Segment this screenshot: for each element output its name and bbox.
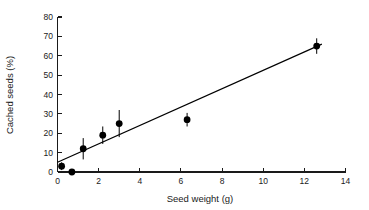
data-point — [313, 43, 320, 50]
error-bars — [62, 38, 317, 170]
x-tick-label: 12 — [300, 176, 310, 186]
regression-line — [58, 44, 322, 162]
data-point — [80, 145, 87, 152]
x-tick-label: 14 — [341, 176, 351, 186]
y-tick-label: 50 — [44, 70, 54, 80]
y-tick-label: 20 — [44, 128, 54, 138]
y-axis-title: Cached seeds (%) — [4, 56, 15, 134]
axis-frame — [58, 17, 346, 172]
data-point — [99, 132, 106, 139]
y-tick-label: 0 — [48, 167, 53, 177]
y-axis-ticks — [58, 17, 63, 172]
x-tick-label: 2 — [96, 176, 101, 186]
y-tick-label: 30 — [44, 109, 54, 119]
y-tick-label: 10 — [44, 148, 54, 158]
y-tick-label: 60 — [44, 51, 54, 61]
data-point — [69, 169, 76, 176]
scatter-plot: 02468101214 01020304050607080 Seed weigh… — [0, 0, 369, 210]
y-tick-label: 70 — [44, 31, 54, 41]
data-point — [58, 163, 65, 170]
chart-figure: 02468101214 01020304050607080 Seed weigh… — [0, 0, 369, 210]
x-axis-tick-labels: 02468101214 — [55, 176, 350, 186]
x-tick-label: 4 — [137, 176, 142, 186]
x-tick-label: 0 — [55, 176, 60, 186]
x-tick-label: 6 — [179, 176, 184, 186]
x-axis-ticks — [58, 168, 346, 173]
y-axis-tick-labels: 01020304050607080 — [44, 12, 54, 177]
y-tick-label: 80 — [44, 12, 54, 22]
data-point — [116, 120, 123, 127]
data-point — [184, 116, 191, 123]
x-tick-label: 10 — [258, 176, 268, 186]
x-axis-title: Seed weight (g) — [167, 193, 234, 204]
y-tick-label: 40 — [44, 90, 54, 100]
x-tick-label: 8 — [220, 176, 225, 186]
